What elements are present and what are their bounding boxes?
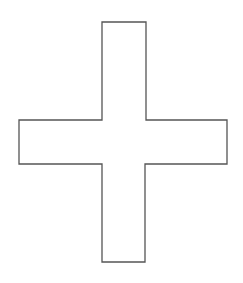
cross-shape (19, 22, 227, 262)
diagram-canvas (0, 0, 243, 283)
